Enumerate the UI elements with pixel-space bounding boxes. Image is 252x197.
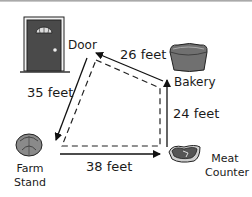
farm-stand-label: Farm Stand: [12, 162, 48, 190]
steak-icon: [169, 146, 200, 163]
door-label: Door: [68, 38, 97, 52]
distance-farm-meat: 38 feet: [86, 160, 132, 174]
route-arrows: [56, 53, 167, 154]
meat-counter-label-line1: Meat: [205, 152, 245, 166]
meat-counter-label: Meat Counter: [205, 152, 245, 180]
distance-bakery-door: 26 feet: [120, 48, 166, 62]
door-icon: [20, 17, 70, 72]
farm-stand-label-line1: Farm: [12, 162, 48, 176]
bakery-label: Bakery: [174, 75, 216, 89]
distance-door-farm: 35 feet: [27, 86, 73, 100]
bread-icon: [170, 44, 207, 72]
farm-stand-label-line2: Stand: [12, 176, 48, 190]
distance-meat-bakery: 24 feet: [173, 107, 219, 121]
meat-counter-label-line2: Counter: [205, 166, 245, 180]
cabbage-icon: [16, 134, 42, 156]
